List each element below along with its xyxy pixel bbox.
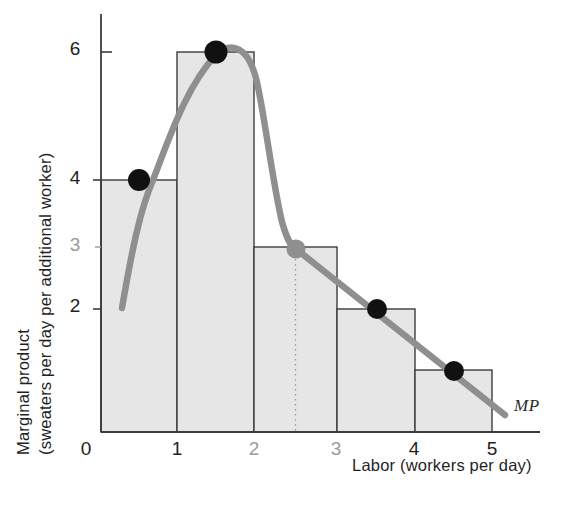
data-point-1-5-6 — [205, 41, 228, 64]
marginal-product-figure: Marginal product (sweaters per day per a… — [0, 0, 580, 505]
data-point-3-5-2 — [367, 299, 387, 319]
data-point-0-5-4 — [128, 169, 150, 191]
data-point-4-5-1 — [444, 361, 464, 381]
bar-interval-1-2 — [177, 52, 254, 432]
bar-interval-3-4 — [337, 309, 415, 432]
plot-area — [0, 0, 580, 505]
data-point-2-5-3 — [287, 240, 306, 259]
